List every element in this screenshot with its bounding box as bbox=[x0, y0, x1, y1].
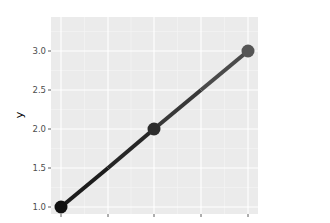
data-point bbox=[55, 201, 68, 214]
y-tick-label: 1.0 bbox=[32, 202, 46, 212]
y-axis: 1.0 1.5 2.0 2.5 3.0 y bbox=[13, 46, 51, 212]
y-axis-title: y bbox=[13, 111, 26, 118]
y-tick-label: 2.0 bbox=[32, 124, 46, 134]
x-axis bbox=[61, 214, 248, 217]
y-tick-label: 3.0 bbox=[32, 46, 46, 56]
y-tick-label: 1.5 bbox=[32, 163, 46, 173]
chart: 1.0 1.5 2.0 2.5 3.0 y bbox=[0, 0, 330, 223]
y-tick-label: 2.5 bbox=[32, 85, 46, 95]
data-point bbox=[242, 45, 255, 58]
data-point bbox=[148, 123, 161, 136]
